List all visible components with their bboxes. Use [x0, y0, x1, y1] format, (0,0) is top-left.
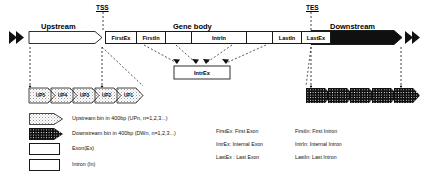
upstream-bin-up1[interactable]: UP1	[117, 88, 143, 103]
downstream-bin-dw5[interactable]: DW5	[394, 88, 420, 103]
definitions: FirstEx: First Exon IntrEx: Internal Exo…	[216, 128, 416, 170]
section-title-upstream: Upstream	[41, 22, 76, 31]
downstream-bin-label: DW4	[380, 93, 390, 99]
gene-segment-internal-exon-2[interactable]	[246, 31, 273, 44]
definition-internal-exon: IntrEx: Internal Exon	[216, 141, 263, 148]
upstream-bins-row: UP5 UP4 UP3 UP2 UP1	[29, 88, 141, 103]
definition-internal-intron: IntrIn: Internal Intron	[295, 141, 342, 148]
upstream-bar	[29, 32, 102, 44]
section-title-downstream: Downstream	[330, 22, 375, 31]
gene-segment-first-intron[interactable]: FirstIn	[136, 31, 166, 44]
section-title-gene-body: Gene body	[173, 22, 212, 31]
downstream-bin-label: DW3	[358, 93, 368, 99]
legend-label-exon: Exon(Ex)	[72, 145, 94, 152]
intrex-callout-leaders	[144, 45, 266, 63]
legend-swatch-exon	[29, 143, 60, 155]
gene-segment-label: LastIn	[279, 35, 295, 41]
legend-swatch-downstream-bin	[29, 128, 63, 140]
figure-canvas: TSS TES Upstream Gene body Downstream	[0, 0, 429, 182]
gene-segment-internal-exon-1[interactable]	[165, 31, 192, 44]
upstream-bin-label: UP4	[58, 93, 67, 99]
definition-first-exon: FirstEx: First Exon	[216, 128, 258, 135]
gene-segment-label: FirstIn	[142, 35, 159, 41]
legend-label-upstream-bin: Upstream bin in 400bp (UPn, n=1,2,3...)	[72, 115, 167, 122]
gene-segment-label: IntrIn	[212, 35, 226, 41]
legend-label-intron: Intron (In)	[72, 161, 95, 168]
gene-body-track: FirstEx FirstIn IntrIn LastIn LastEx	[105, 31, 295, 44]
gene-segment-first-exon[interactable]: FirstEx	[105, 31, 137, 44]
upstream-bin-label: UP1	[124, 93, 133, 99]
tes-marker-label: TES	[306, 4, 319, 11]
gene-segment-internal-intron[interactable]: IntrIn	[191, 31, 247, 44]
downstream-bins-row: DW1 DW2 DW3 DW4 DW5	[306, 88, 418, 103]
upstream-bin-label: UP3	[80, 93, 89, 99]
upstream-bin-label: UP5	[36, 93, 45, 99]
legend: Upstream bin in 400bp (UPn, n=1,2,3...) …	[29, 113, 219, 175]
intrex-callout-arrowheads	[173, 59, 229, 64]
intrex-callout: IntrEx	[174, 66, 230, 79]
downstream-bins-leaders	[311, 47, 401, 86]
definition-last-intron: LastIn: Last Intron	[295, 154, 337, 161]
upstream-bin-label: UP2	[102, 93, 111, 99]
definition-last-exon: LastEx : Last Exon	[216, 154, 259, 161]
upstream-bins-leaders	[30, 47, 102, 86]
legend-swatch-upstream-bin	[29, 113, 63, 125]
downstream-bin-label: DW1	[314, 93, 324, 99]
legend-swatch-intron	[29, 159, 60, 171]
downstream-bin-label: DW5	[402, 93, 412, 99]
legend-label-downstream-bin: Downstream bin in 400bp (DWn, n=1,2,3...…	[72, 130, 176, 137]
gene-segment-last-intron[interactable]: LastIn	[272, 31, 302, 44]
left-strand-arrows	[9, 31, 24, 44]
gene-segment-label: LastEx	[307, 35, 325, 41]
definition-first-intron: FirstIn: First Intron	[295, 128, 337, 135]
intrex-callout-label: IntrEx	[194, 70, 210, 76]
gene-segment-last-exon[interactable]: LastEx	[301, 31, 331, 44]
right-strand-arrows	[405, 31, 420, 44]
gene-segment-label: FirstEx	[112, 35, 131, 41]
tss-marker-label: TSS	[96, 4, 109, 11]
downstream-bin-label: DW2	[336, 93, 346, 99]
